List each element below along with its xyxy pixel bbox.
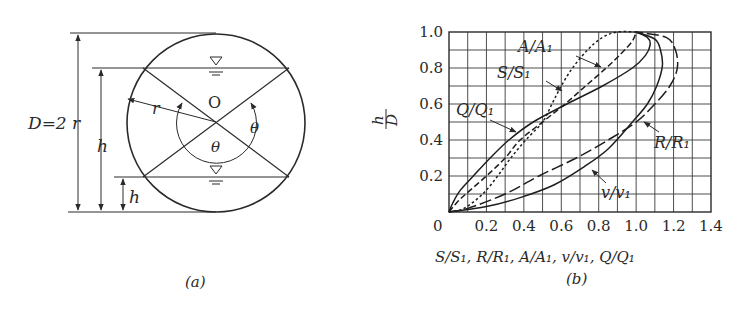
h-label-large: h <box>97 136 108 156</box>
figure-b-chart: 0.20.40.60.81.01.21.4 0.20.40.60.81.0 0 … <box>369 23 723 288</box>
figure-a-caption: (a) <box>185 273 206 291</box>
label-Q-Q1: Q/Q₁ <box>456 100 494 119</box>
water-surface-symbol-lower <box>209 166 223 184</box>
center-label: O <box>208 93 221 112</box>
x-axis-label: S/S₁, R/R₁, A/A₁, v/v₁, Q/Q₁ <box>435 248 635 266</box>
water-surface-symbol-upper <box>209 57 223 75</box>
x-tick-label: 1.2 <box>662 217 686 235</box>
x-tick-label: 0.6 <box>549 217 573 235</box>
figure-a-pipe-cross-section: D=2 r r O θ θ h h (a) <box>27 33 305 291</box>
label-R-R1: R/R₁ <box>653 133 690 152</box>
y-tick-labels: 0.20.40.60.81.0 <box>419 23 443 185</box>
y-tick-label: 1.0 <box>419 23 443 41</box>
theta-label-bottom: θ <box>211 138 220 156</box>
label-v-v1: v/v₁ <box>601 183 631 202</box>
y-tick-label: 0.6 <box>419 95 443 113</box>
radius-line <box>128 99 216 122</box>
y-tick-label: 0.2 <box>419 167 443 185</box>
y-tick-label: 0.4 <box>419 131 443 149</box>
radius-label: r <box>152 99 161 118</box>
label-A-A1: A/A₁ <box>516 37 553 56</box>
figure-canvas: D=2 r r O θ θ h h (a) 0.20.40.60.81.01.2… <box>0 0 746 310</box>
h-label-small: h <box>129 187 140 207</box>
x-tick-label: 1.0 <box>624 217 648 235</box>
label-S-S1: S/S₁ <box>497 63 531 82</box>
x-tick-labels: 0.20.40.60.81.01.21.4 <box>474 217 722 235</box>
origin-label: 0 <box>433 217 443 235</box>
x-tick-label: 0.4 <box>512 217 536 235</box>
x-tick-label: 0.2 <box>474 217 498 235</box>
x-tick-label: 1.4 <box>699 217 723 235</box>
theta-label-right: θ <box>250 119 259 137</box>
x-tick-label: 0.8 <box>587 217 611 235</box>
figure-b-caption: (b) <box>566 270 587 288</box>
y-axis-label-den: D <box>383 114 401 127</box>
diameter-label: D=2 r <box>27 113 81 133</box>
y-tick-label: 0.8 <box>419 59 443 77</box>
leader-R-R1 <box>644 122 659 132</box>
